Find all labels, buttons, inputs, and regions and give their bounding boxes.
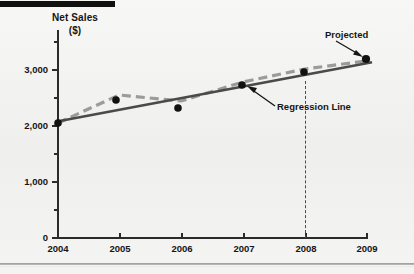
data-point-2004 (54, 119, 62, 127)
bottom-rule-highlight (0, 266, 414, 267)
data-point-2006 (174, 104, 182, 112)
data-point-2009-projected (362, 55, 370, 63)
data-point-2007 (238, 81, 246, 89)
projected-annotation-arrow (336, 41, 363, 57)
series-regression-line (57, 62, 372, 121)
bottom-rule-divider (0, 263, 414, 265)
data-point-2005 (112, 96, 120, 104)
regression-line-annotation-label: Regression Line (277, 101, 351, 112)
data-point-2008 (300, 68, 308, 76)
projected-annotation-label: Projected (325, 29, 368, 40)
plot-area (0, 8, 414, 266)
top-rule-divider (0, 1, 115, 7)
net-sales-chart: Net Sales ($) 0 1,000 2,000 3,000 2004 2… (0, 8, 414, 266)
figure-canvas: Net Sales ($) 0 1,000 2,000 3,000 2004 2… (0, 0, 414, 274)
regression-annotation-arrow (247, 86, 275, 106)
